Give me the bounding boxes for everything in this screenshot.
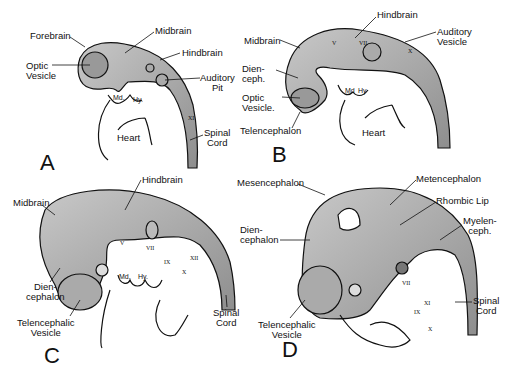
panel-a-label-hy: Hy. — [133, 95, 143, 105]
panel-a-label-spinal-cord: Spinal Cord — [204, 128, 230, 148]
panel-a-label-heart: Heart — [117, 133, 140, 143]
panel-b-label-hy: Hy — [358, 86, 367, 96]
panel-b-label-telencephalon: Telencephalon — [240, 126, 301, 136]
panel-a-label-forebrain: Forebrain — [30, 31, 71, 41]
panel-a-label-auditory-pit: Auditory Pit — [200, 73, 235, 93]
panel-c-telencephalic-vesicle — [58, 274, 102, 310]
panel-d-label-mesencephalon: Mesencephalon — [237, 178, 304, 188]
panel-c-letter: C — [44, 343, 60, 369]
panel-b-nerve-vii: VII — [359, 40, 367, 46]
panel-b-label-hindbrain: Hindbrain — [377, 10, 418, 20]
panel-d-label-myelenceph: Myelen- ceph. — [463, 216, 497, 236]
panel-a-auditory-pit — [156, 74, 168, 86]
panel-a-label-midbrain: Midbrain — [155, 26, 191, 36]
panel-c-nerve-x: X — [182, 269, 186, 275]
panel-a-drawing — [78, 43, 197, 168]
panel-c-nerve-ix: IX — [164, 259, 170, 265]
panel-c-heart-outline — [101, 290, 188, 348]
panel-d-label-diencephalon: Dien- cephalon — [240, 225, 279, 245]
panel-d-drawing — [298, 188, 477, 347]
panel-b-label-midbrain: Midbrain — [244, 36, 280, 46]
panel-d-nerve-ix: IX — [414, 309, 420, 315]
panel-d-nerve-xi: XI — [424, 300, 430, 306]
panel-c-label-midbrain: Midbrain — [13, 198, 49, 208]
panel-b-optic-vesicle — [291, 88, 319, 108]
panel-a-optic-vesicle — [82, 52, 108, 78]
panel-b-nerve-x: X — [408, 48, 412, 54]
panel-b-label-auditory-vesicle: Auditory Vesicle — [437, 27, 472, 47]
panel-a-label-hindbrain: Hindbrain — [182, 48, 223, 58]
panel-d-nerve-vii: VII — [402, 280, 410, 286]
panel-d-label-rhombic-lip: Rhombic Lip — [436, 196, 489, 206]
panel-d-optic-cup — [349, 284, 361, 296]
panel-a-letter: A — [40, 150, 55, 176]
panel-d-letter: D — [282, 337, 298, 363]
panel-c-nerve-xii: XII — [190, 255, 198, 261]
panel-b-heart-outline — [340, 100, 405, 145]
panel-c-label-hindbrain: Hindbrain — [142, 175, 183, 185]
panel-d-envelope — [302, 188, 477, 335]
panel-a-nerve-xi: XI — [188, 115, 194, 121]
panel-b-label-optic-vesicle: Optic Vesicle. — [242, 93, 275, 113]
panel-a-label-optic-vesicle: Optic Vesicle — [26, 61, 56, 81]
panel-c-label-telencephalic-vesicle: Telencephalic Vesicle — [17, 318, 75, 338]
panel-d-label-spinal-cord: Spinal Cord — [473, 296, 499, 316]
panel-d-jaw-outline — [340, 315, 410, 347]
panel-b-label-md: Md — [345, 86, 355, 96]
panel-b-label-diencephalon: Dien- ceph. — [242, 64, 265, 84]
panel-c-label-diencephalon: Dien- cephalon — [26, 282, 65, 302]
panel-b-letter: B — [272, 142, 287, 168]
panel-b-label-heart: Heart — [362, 128, 385, 138]
panel-c-label-hy: Hy. — [138, 272, 148, 282]
panel-d-telencephalic-vesicle — [298, 266, 342, 314]
panel-c-label-spinal-cord: Spinal Cord — [213, 308, 239, 328]
panel-c-nerve-vii: VII — [146, 245, 154, 251]
panel-d-label-metencephalon: Metencephalon — [416, 174, 481, 184]
panel-d-nerve-x: X — [428, 326, 432, 332]
panel-c-optic-cup — [96, 264, 108, 276]
panel-a-label-md: Md. — [113, 93, 125, 103]
panel-c-label-md: Md. — [119, 272, 131, 282]
panel-c-nerve-v: V — [120, 240, 124, 246]
panel-a-heart-outline — [98, 100, 152, 160]
panel-b-nerve-v: V — [332, 40, 336, 46]
